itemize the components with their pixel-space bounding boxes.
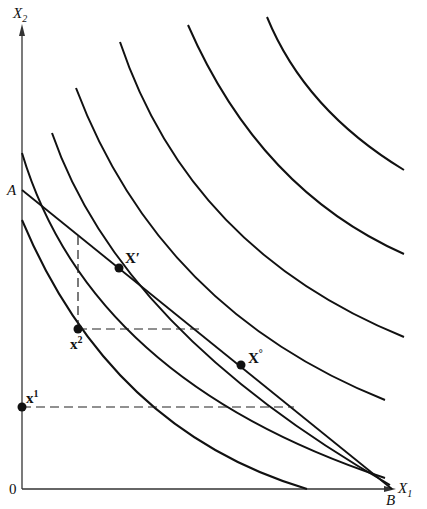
indifference-curve-6 [188, 25, 404, 254]
point-x-optimum-label: X° [248, 349, 263, 366]
budget-intercept-b-label: B [386, 493, 395, 508]
y-axis-label: X2 [13, 6, 27, 24]
x-axis-label: X1 [398, 481, 412, 499]
point-x-one-label: x1 [26, 389, 39, 406]
y-axis-arrow [19, 24, 25, 36]
budget-intercept-a-label: A [7, 183, 16, 198]
origin-label: 0 [9, 482, 17, 497]
point-x-optimum [237, 361, 246, 370]
point-x-prime [115, 264, 124, 273]
indifference-curve-2 [22, 153, 385, 478]
indifference-curve-7 [267, 17, 404, 170]
indifference-curve-3 [52, 133, 390, 485]
point-x-two [74, 325, 83, 334]
indifference-curve-1 [22, 220, 307, 489]
point-x-two-label: x2 [70, 335, 83, 352]
indifference-curve-4 [76, 88, 385, 400]
point-x-prime-label: X′ [125, 251, 140, 266]
indifference-diagram [0, 0, 427, 509]
indifference-curve-5 [120, 42, 404, 337]
